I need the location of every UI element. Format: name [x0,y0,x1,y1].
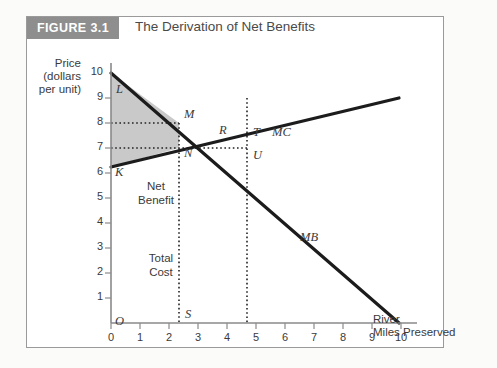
point-label-S: S [185,307,191,322]
point-label-L: L [116,82,123,97]
point-label-M: M [184,107,194,122]
point-label-R: R [219,123,227,138]
x-axis-title-line2: Miles Preserved [373,326,473,339]
chart-plot-area: 10 9 8 7 6 5 4 3 2 1 0 1 2 3 4 5 6 7 8 9… [27,17,445,349]
point-label-T: T [253,125,260,140]
total-cost-label-line2: Cost [133,265,189,279]
x-tick-label-8: 8 [333,331,353,343]
mc-curve-label: MC [272,125,291,140]
y-axis-title-line1: Price [31,57,81,70]
x-tick-label-4: 4 [217,331,237,343]
point-label-K: K [115,165,123,180]
y-tick-label-7: 7 [81,140,103,152]
y-tick-label-6: 6 [81,165,103,177]
point-label-U: U [253,148,262,163]
y-axis-title-line2: (dollars [31,70,81,83]
y-tick-label-2: 2 [81,265,103,277]
x-tick-label-1: 1 [130,331,150,343]
y-tick-label-4: 4 [81,215,103,227]
x-tick-label-7: 7 [304,331,324,343]
x-axis-title-line1: River [373,313,473,326]
y-tick-label-3: 3 [81,240,103,252]
x-axis-title: River Miles Preserved [373,313,473,339]
total-cost-label: Total Cost [133,251,189,279]
x-tick-label-2: 2 [159,331,179,343]
y-tick-label-9: 9 [81,90,103,102]
total-cost-label-line1: Total [133,251,189,265]
x-tick-label-0: 0 [101,331,121,343]
net-benefit-label: Net Benefit [125,179,187,207]
point-label-N: N [184,146,192,161]
y-axis-title-line3: per unit) [31,83,81,96]
net-benefit-label-line1: Net [125,179,187,193]
net-benefit-label-line2: Benefit [125,193,187,207]
point-label-O: O [115,314,124,329]
mb-curve-label: MB [300,230,318,245]
y-tick-label-10: 10 [81,65,103,77]
y-tick-label-1: 1 [81,290,103,302]
y-axis-title: Price (dollars per unit) [31,57,81,96]
y-tick-label-5: 5 [81,190,103,202]
x-tick-label-5: 5 [246,331,266,343]
x-tick-label-3: 3 [188,331,208,343]
x-tick-label-6: 6 [275,331,295,343]
figure-frame: FIGURE 3.1 The Derivation of Net Benefit… [26,16,444,348]
y-tick-label-8: 8 [81,115,103,127]
